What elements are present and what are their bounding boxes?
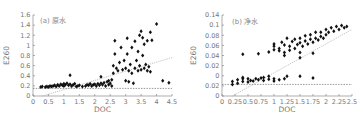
x-tick-label: 1 xyxy=(62,98,66,106)
data-point xyxy=(127,80,130,84)
x-tick-label: 2.25 xyxy=(332,98,346,106)
x-tick-label: 0.25 xyxy=(228,98,242,106)
panel-title: (b) 净水 xyxy=(232,17,258,26)
y-tick-label: 1 xyxy=(26,42,30,50)
x-tick-label: 0 xyxy=(220,98,224,106)
y-tick-label: 0.2 xyxy=(20,82,30,90)
data-point xyxy=(104,84,107,88)
data-point xyxy=(133,66,136,70)
y-tick-label: 1.6 xyxy=(20,11,30,19)
data-point xyxy=(254,77,257,81)
data-point xyxy=(81,84,84,88)
data-point xyxy=(126,52,129,56)
data-point xyxy=(314,30,317,34)
data-point xyxy=(298,51,301,55)
x-tick-label: 2.5 xyxy=(347,98,357,106)
data-point xyxy=(288,44,291,48)
axes xyxy=(222,15,352,96)
data-point xyxy=(110,78,113,82)
y-tick-label: 0.4 xyxy=(20,72,30,80)
data-point xyxy=(272,79,275,83)
data-point xyxy=(330,26,333,30)
y-tick-label: 0.08 xyxy=(205,32,219,40)
data-point xyxy=(298,74,301,78)
data-point xyxy=(345,25,348,29)
data-point xyxy=(296,43,299,47)
data-point xyxy=(298,41,301,45)
panel-b-treated-water: 00.0200.020.040.060.080.10.1400.250.50.7… xyxy=(189,11,357,114)
data-point xyxy=(337,27,340,31)
data-point xyxy=(267,50,270,54)
y-tick-label: 0 xyxy=(26,92,30,100)
data-point xyxy=(278,47,281,51)
data-point xyxy=(146,69,149,73)
y-tick-label: 0.1 xyxy=(209,21,219,29)
x-axis-title: DOC xyxy=(279,105,296,114)
data-point xyxy=(343,26,346,30)
data-point xyxy=(167,81,170,85)
data-point xyxy=(161,79,164,83)
data-point xyxy=(283,77,286,81)
data-point xyxy=(130,45,133,49)
data-point xyxy=(335,25,338,29)
data-point xyxy=(257,52,260,56)
x-tick-label: 3 xyxy=(124,98,128,106)
data-point xyxy=(241,52,244,56)
data-point xyxy=(140,68,143,72)
data-point xyxy=(283,51,286,55)
x-tick-label: 4 xyxy=(154,98,158,106)
y-tick-label: 0.8 xyxy=(20,52,30,60)
data-point xyxy=(291,40,294,44)
data-point xyxy=(246,80,249,84)
data-point xyxy=(272,42,275,46)
data-point xyxy=(118,61,121,65)
data-point xyxy=(143,66,146,70)
data-point xyxy=(146,39,149,43)
data-point xyxy=(113,52,116,56)
data-point xyxy=(150,38,153,42)
x-tick-label: 1.5 xyxy=(295,98,305,106)
data-point xyxy=(288,48,291,52)
data-point xyxy=(132,81,135,85)
x-tick-label: 3.5 xyxy=(136,98,146,106)
data-point xyxy=(309,37,312,41)
x-tick-label: 0.5 xyxy=(43,98,53,106)
data-point xyxy=(327,30,330,34)
data-point xyxy=(147,65,150,69)
data-point xyxy=(126,36,129,40)
data-point xyxy=(138,64,141,68)
data-point xyxy=(304,39,307,43)
data-point xyxy=(246,77,249,81)
data-point xyxy=(129,63,132,67)
x-tick-label: 4.5 xyxy=(167,98,177,106)
panel-title: (a) 原水 xyxy=(40,16,66,25)
data-point xyxy=(155,22,158,26)
data-point xyxy=(332,29,335,33)
data-point xyxy=(317,38,320,42)
data-point xyxy=(68,73,71,77)
data-point xyxy=(123,59,126,63)
fit-line xyxy=(42,58,172,96)
data-point xyxy=(319,34,322,38)
y-tick-label: 1.4 xyxy=(20,21,30,29)
x-tick-label: 0 xyxy=(31,98,35,106)
y-tick-label: 0 xyxy=(215,92,219,100)
data-point xyxy=(144,63,147,67)
data-point xyxy=(124,66,127,70)
data-point xyxy=(293,47,296,51)
data-point xyxy=(314,36,317,40)
data-point xyxy=(319,30,322,34)
data-point xyxy=(306,42,309,46)
x-tick-label: 1.75 xyxy=(306,98,320,106)
data-point xyxy=(324,33,327,37)
y-tick-label: 0.02 xyxy=(205,82,219,90)
data-point xyxy=(285,74,288,78)
data-point xyxy=(136,69,139,73)
data-point xyxy=(135,59,138,63)
chart-canvas: 00.20.40.60.811.21.41.600.511.522.533.54… xyxy=(0,0,363,124)
data-point xyxy=(340,23,343,27)
data-point xyxy=(272,48,275,52)
data-point xyxy=(311,76,314,80)
data-point xyxy=(249,78,252,82)
data-point xyxy=(141,36,144,40)
